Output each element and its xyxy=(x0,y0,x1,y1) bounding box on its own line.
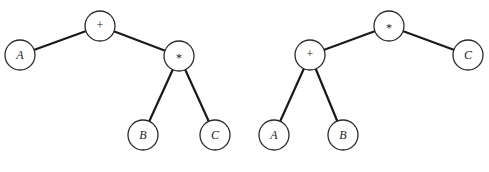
node-times: * xyxy=(374,11,404,41)
node-label: A xyxy=(15,48,24,62)
node-label: C xyxy=(464,48,473,62)
node-A: A xyxy=(259,120,289,150)
node-C: C xyxy=(453,40,483,70)
node-label: + xyxy=(97,18,104,32)
node-B: B xyxy=(328,120,358,150)
tree-right: * + C A B xyxy=(259,11,483,150)
node-B: B xyxy=(128,120,158,150)
node-times: * xyxy=(164,41,194,71)
expression-tree-diagram: + A * B C * + xyxy=(0,0,489,172)
node-plus: + xyxy=(295,40,325,70)
tree-left: + A * B C xyxy=(5,11,230,150)
node-label: * xyxy=(176,51,182,65)
node-label: C xyxy=(211,128,220,142)
node-label: A xyxy=(269,128,278,142)
node-label: B xyxy=(139,128,147,142)
node-label: + xyxy=(307,47,314,61)
node-plus: + xyxy=(85,11,115,41)
node-A: A xyxy=(5,40,35,70)
node-label: B xyxy=(339,128,347,142)
node-label: * xyxy=(386,21,392,35)
node-C: C xyxy=(200,120,230,150)
